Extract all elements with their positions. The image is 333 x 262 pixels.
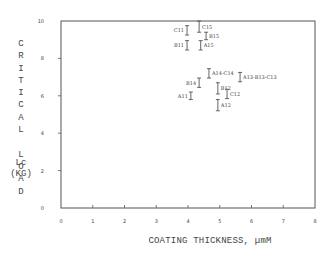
data-point-label: A13-B13-C13 [242,74,277,80]
data-point-label: A11 [177,93,188,99]
y-tick-label: 8 [41,55,44,61]
data-point-label: C15 [202,24,212,30]
data-point-a12: A12 [216,100,231,111]
y-tick-label: 2 [41,168,44,174]
data-point-a14-c14: A14-C14 [207,69,234,78]
x-tick-label: 1 [91,218,94,224]
data-point-b11: B11 [174,41,189,50]
data-points: C11C15B15B11A15A14-C14A13-B13-C13B14B12C… [174,21,277,111]
y-tick-label: 6 [41,93,44,99]
x-tick-label: 0 [59,218,62,224]
data-point-label: A12 [220,102,231,108]
data-point-c11: C11 [174,26,189,35]
data-point-label: B11 [174,42,184,48]
data-point-label: A14-C14 [211,70,234,76]
data-point-b14: B14 [186,78,201,87]
x-tick-label: 7 [282,218,285,224]
y-axis-ticks: 0246810 [38,18,61,211]
scatter-plot: 012345678 0246810 C11C15B15B11A15A14-C14… [0,0,333,262]
x-tick-label: 3 [155,218,158,224]
x-tick-label: 4 [186,218,189,224]
y-tick-label: 10 [38,18,44,24]
data-point-a11: A11 [177,92,193,99]
data-point-label: A15 [203,42,214,48]
x-tick-label: 5 [218,218,221,224]
data-point-label: B14 [186,80,196,86]
data-point-c15: C15 [197,21,212,32]
data-point-c12: C12 [225,89,240,98]
data-point-a15: A15 [199,41,214,50]
data-point-b12: B12 [216,83,231,94]
x-tick-label: 8 [313,218,316,224]
data-point-a13-b13-c13: A13-B13-C13 [238,72,277,81]
y-tick-label: 4 [41,130,44,136]
x-tick-label: 2 [123,218,126,224]
data-point-label: B15 [209,33,219,39]
data-point-label: C12 [230,91,240,97]
data-point-label: C11 [174,27,184,33]
data-point-b15: B15 [204,32,219,39]
x-tick-label: 6 [250,218,253,224]
plot-frame [61,21,315,208]
y-tick-label: 0 [41,205,44,211]
plot-border [61,21,315,208]
